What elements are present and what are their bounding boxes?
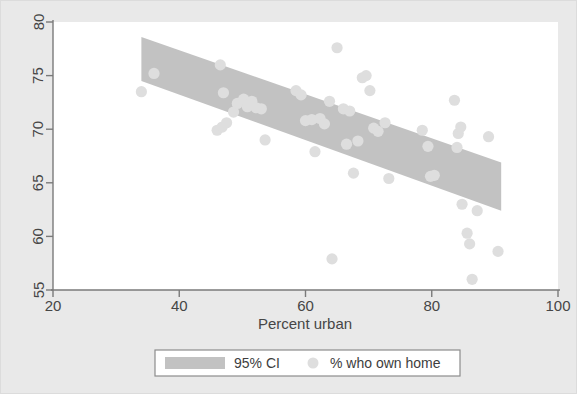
- scatter-point: [352, 135, 363, 146]
- scatter-point: [319, 118, 330, 129]
- scatter-point: [467, 274, 478, 285]
- scatter-point: [483, 131, 494, 142]
- scatter-plot: 556065707580 20406080100 Percent urban 9…: [0, 0, 577, 394]
- y-axis-ticks: 556065707580: [30, 14, 54, 299]
- scatter-point: [344, 105, 355, 116]
- scatter-point: [492, 246, 503, 257]
- scatter-point: [456, 199, 467, 210]
- scatter-point: [136, 86, 147, 97]
- scatter-point: [464, 238, 475, 249]
- legend-swatch-ci-band: [165, 357, 225, 369]
- scatter-point: [379, 117, 390, 128]
- scatter-point: [348, 168, 359, 179]
- scatter-point: [221, 117, 232, 128]
- y-tick-label: 80: [30, 14, 47, 31]
- x-tick-label: 40: [171, 297, 188, 314]
- scatter-point: [422, 141, 433, 152]
- y-tick-label: 55: [30, 282, 47, 299]
- scatter-point: [324, 96, 335, 107]
- scatter-point: [383, 173, 394, 184]
- scatter-point: [326, 253, 337, 264]
- scatter-point: [429, 170, 440, 181]
- x-tick-label: 60: [297, 297, 314, 314]
- scatter-point: [451, 142, 462, 153]
- legend-marker-own-home: [308, 358, 319, 369]
- scatter-point: [455, 121, 466, 132]
- scatter-point: [417, 125, 428, 136]
- scatter-point: [341, 139, 352, 150]
- y-tick-label: 65: [30, 174, 47, 191]
- scatter-point: [364, 85, 375, 96]
- scatter-point: [331, 42, 342, 53]
- y-tick-label: 70: [30, 121, 47, 138]
- legend-label-own-home: % who own home: [330, 355, 441, 371]
- scatter-point: [472, 205, 483, 216]
- scatter-point: [215, 59, 226, 70]
- chart-figure: 556065707580 20406080100 Percent urban 9…: [0, 0, 577, 394]
- scatter-point: [361, 70, 372, 81]
- x-tick-label: 100: [545, 297, 570, 314]
- x-axis-title: Percent urban: [258, 315, 352, 332]
- y-tick-label: 75: [30, 67, 47, 84]
- scatter-point: [462, 228, 473, 239]
- legend-label-ci: 95% CI: [234, 355, 280, 371]
- x-axis-ticks: 20406080100: [45, 290, 571, 314]
- scatter-point: [309, 146, 320, 157]
- y-tick-label: 60: [30, 228, 47, 245]
- scatter-point: [295, 89, 306, 100]
- x-tick-label: 20: [45, 297, 62, 314]
- scatter-point: [260, 134, 271, 145]
- scatter-point: [218, 87, 229, 98]
- scatter-point: [256, 103, 267, 114]
- x-tick-label: 80: [423, 297, 440, 314]
- scatter-point: [148, 68, 159, 79]
- scatter-point: [449, 95, 460, 106]
